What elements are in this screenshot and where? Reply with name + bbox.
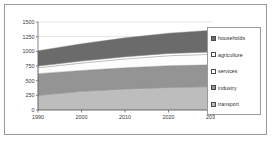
chart-frame: mtoe 0250500750100012501500 199020002010…	[4, 4, 267, 135]
chart-legend: householdsagricultureservicesindustrytra…	[207, 27, 261, 115]
legend-swatch-icon	[211, 85, 216, 90]
legend-item-label: transport	[218, 101, 239, 107]
legend-item-households: households	[211, 32, 258, 44]
x-tick-label: 2010	[119, 114, 131, 120]
x-tick-label: 2000	[76, 114, 88, 120]
y-tick-label: 750	[26, 63, 35, 69]
legend-item-label: households	[218, 35, 245, 41]
x-axis-ticks: 19902000201020202030	[32, 110, 215, 120]
y-tick-label: 1250	[23, 34, 35, 40]
legend-item-label: services	[218, 68, 237, 74]
legend-item-services: services	[211, 65, 258, 77]
legend-item-label: industry	[218, 85, 237, 91]
plot-area: mtoe 0250500750100012501500 199020002010…	[10, 10, 215, 129]
y-tick-label: 250	[26, 92, 35, 98]
y-tick-label: 1000	[23, 48, 35, 54]
legend-item-label: agriculture	[218, 52, 243, 58]
y-tick-label: 1500	[23, 19, 35, 25]
legend-item-agriculture: agriculture	[211, 49, 258, 61]
y-tick-label: 500	[26, 78, 35, 84]
legend-item-industry: industry	[211, 82, 258, 94]
legend-swatch-icon	[211, 69, 216, 74]
y-axis-ticks: 0250500750100012501500	[23, 19, 39, 113]
stacked-area-chart: 0250500750100012501500 19902000201020202…	[10, 10, 215, 129]
x-tick-label: 2020	[163, 114, 175, 120]
legend-swatch-icon	[211, 52, 216, 57]
legend-swatch-icon	[211, 36, 216, 41]
legend-swatch-icon	[211, 102, 216, 107]
y-tick-label: 0	[32, 107, 35, 113]
x-tick-label: 1990	[32, 114, 44, 120]
legend-item-transport: transport	[211, 98, 258, 110]
